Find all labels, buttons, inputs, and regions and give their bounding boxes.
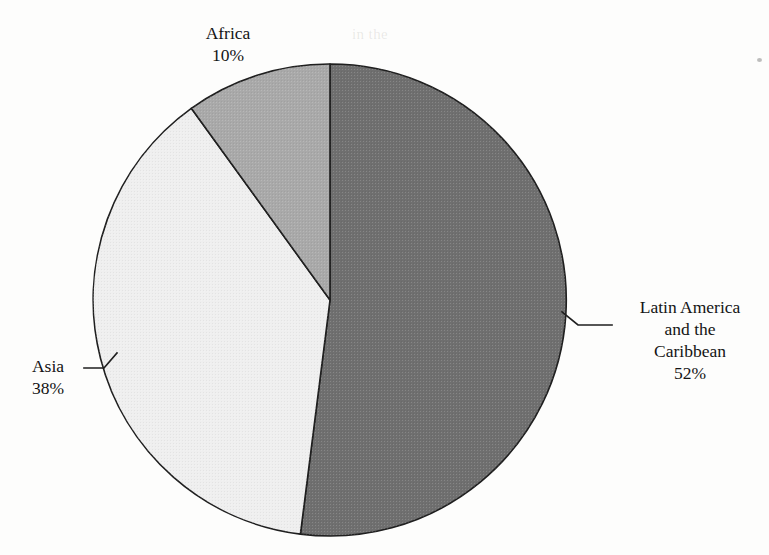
pie-label-africa: Africa 10% [168, 22, 288, 66]
chart-page: in the e over gna and bus to an nce of m… [0, 0, 769, 555]
leader-line-latin-america [562, 312, 612, 325]
pie-label-asia-value: 38% [0, 377, 96, 399]
pie-label-asia-name: Asia [32, 356, 64, 376]
pie-slice-latin-america-and-the-caribbean[interactable] [300, 64, 566, 536]
pie-label-asia: Asia 38% [0, 355, 96, 399]
pie-label-latin-america-line2: and the [664, 319, 715, 339]
pie-label-latin-america-value: 52% [614, 362, 766, 384]
pie-label-latin-america: Latin America and the Caribbean 52% [614, 296, 766, 384]
pie-label-africa-value: 10% [168, 44, 288, 66]
pie-label-latin-america-line3: Caribbean [654, 341, 726, 361]
pie-chart [0, 0, 769, 555]
pie-label-africa-name: Africa [206, 23, 251, 43]
pie-label-latin-america-line1: Latin America [640, 297, 741, 317]
